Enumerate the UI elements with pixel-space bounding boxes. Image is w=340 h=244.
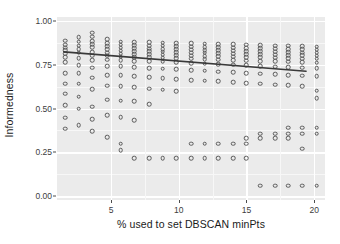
data-point (202, 61, 207, 66)
gridline-horizontal (57, 196, 325, 197)
data-point (147, 75, 152, 80)
data-point (231, 63, 236, 68)
x-tick-label: 5 (109, 205, 114, 215)
data-point (231, 80, 236, 85)
data-point (160, 88, 165, 93)
data-point (76, 95, 81, 100)
data-point (258, 183, 263, 188)
data-point (63, 103, 68, 108)
data-point (63, 60, 68, 65)
data-point (231, 141, 236, 146)
data-point (300, 65, 305, 70)
y-tick-mark (53, 108, 56, 109)
data-point (286, 126, 291, 131)
data-point (105, 113, 110, 118)
data-point (300, 73, 305, 78)
data-point (202, 78, 207, 83)
y-tick-label: 1.00 (18, 16, 52, 26)
gridline-horizontal (57, 109, 325, 110)
data-point (231, 70, 236, 75)
data-point (63, 55, 68, 60)
data-point (76, 71, 81, 76)
data-point (105, 83, 110, 88)
data-point (160, 66, 165, 71)
data-point (118, 115, 123, 120)
data-point (132, 74, 137, 79)
data-point (231, 156, 236, 161)
y-tick-mark (53, 152, 56, 153)
data-point (286, 136, 291, 141)
data-point (315, 183, 320, 188)
data-point (63, 115, 68, 120)
data-point (300, 146, 305, 151)
data-point (300, 183, 305, 188)
y-axis-title-text: Informedness (3, 73, 15, 138)
gridline-vertical-minor (280, 17, 281, 200)
data-point (244, 141, 249, 146)
data-point (300, 126, 305, 131)
data-point (132, 99, 137, 104)
data-point (244, 156, 249, 161)
data-point (286, 65, 291, 70)
y-axis-tick-labels: 0.000.250.500.751.00 (16, 0, 52, 244)
data-point (174, 60, 179, 65)
data-point (286, 183, 291, 188)
x-tick-mark (111, 200, 112, 203)
gridline-vertical-minor (213, 17, 214, 200)
data-point (147, 66, 152, 71)
data-point (286, 83, 291, 88)
data-point (216, 79, 221, 84)
data-point (202, 69, 207, 74)
data-point (132, 85, 137, 90)
gridline-horizontal-minor (57, 87, 325, 88)
data-point (258, 64, 263, 69)
data-point (147, 59, 152, 64)
data-point (147, 156, 152, 161)
x-axis-title: % used to set DBSCAN minPts (57, 218, 325, 230)
data-point (244, 81, 249, 86)
data-point (63, 71, 68, 76)
data-point (105, 135, 110, 140)
data-point (76, 123, 81, 128)
data-point (273, 82, 278, 87)
gridline-horizontal (57, 21, 325, 22)
data-point (216, 69, 221, 74)
data-point (216, 156, 221, 161)
plot-panel (57, 17, 325, 200)
data-point (160, 156, 165, 161)
data-point (273, 59, 278, 64)
data-point (202, 141, 207, 146)
data-point (105, 64, 110, 69)
x-tick-mark (246, 200, 247, 203)
x-tick-label: 10 (174, 205, 183, 215)
gridline-horizontal (57, 152, 325, 153)
gridline-horizontal-minor (57, 174, 325, 175)
data-point (132, 156, 137, 161)
data-point (273, 64, 278, 69)
y-tick-label: 0.00 (18, 191, 52, 201)
y-tick-label: 0.50 (18, 104, 52, 114)
data-point (90, 75, 95, 80)
data-point (118, 98, 123, 103)
data-point (118, 58, 123, 63)
data-point (300, 60, 305, 65)
data-point (315, 66, 320, 71)
data-point (189, 141, 194, 146)
scatter-plot-figure: Informedness 0.000.250.500.751.00 510152… (0, 0, 340, 244)
data-point (286, 73, 291, 78)
data-point (76, 82, 81, 87)
data-point (63, 91, 68, 96)
data-point (216, 62, 221, 67)
gridline-horizontal-minor (57, 130, 325, 131)
y-tick-mark (53, 20, 56, 21)
data-point (118, 84, 123, 89)
data-point (258, 82, 263, 87)
data-point (63, 81, 68, 86)
x-tick-mark (314, 200, 315, 203)
data-point (90, 87, 95, 92)
data-point (273, 136, 278, 141)
data-point (76, 56, 81, 61)
x-tick-label: 15 (242, 205, 251, 215)
data-point (147, 86, 152, 91)
data-point (132, 65, 137, 70)
